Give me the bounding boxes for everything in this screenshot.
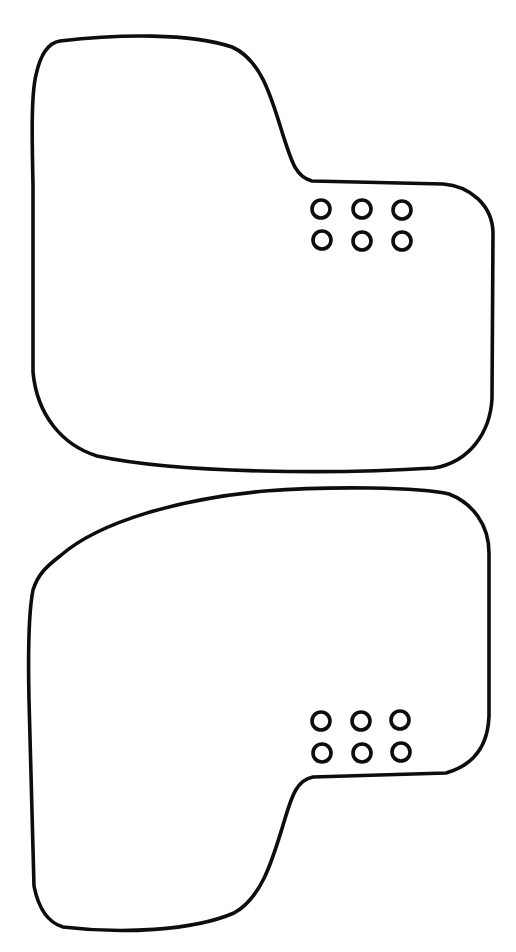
mounting-hole-r1-c2[interactable] xyxy=(353,200,371,218)
mounting-hole-r2-c3[interactable] xyxy=(393,232,411,250)
mounting-hole-r1-c2[interactable] xyxy=(352,712,370,730)
mounting-hole-r1-c3[interactable] xyxy=(391,711,409,729)
mounting-hole-r2-c2[interactable] xyxy=(353,232,371,250)
mounting-hole-r1-c1[interactable] xyxy=(312,200,330,218)
mounting-hole-r2-c2[interactable] xyxy=(353,744,371,762)
outline-drawing-svg xyxy=(0,0,516,952)
mounting-hole-r1-c3[interactable] xyxy=(393,201,411,219)
drawing-canvas xyxy=(0,0,516,952)
mounting-hole-r2-c1[interactable] xyxy=(313,231,331,249)
mounting-hole-r2-c1[interactable] xyxy=(313,744,331,762)
mounting-hole-r1-c1[interactable] xyxy=(312,712,330,730)
mounting-hole-r2-c3[interactable] xyxy=(392,743,410,761)
